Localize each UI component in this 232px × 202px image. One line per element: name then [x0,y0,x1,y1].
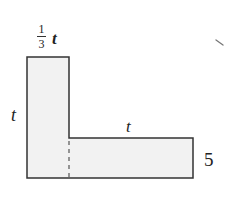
right-width-label: t [126,118,131,135]
fraction-numerator: 1 [39,23,45,35]
left-height-label: t [11,106,16,124]
fraction-denominator: 3 [39,38,45,50]
diagram-svg [0,0,232,202]
stray-mark [216,40,223,45]
l-shape-diagram: 1 3 t t t 5 [0,0,232,202]
l-shape-region [27,57,193,178]
top-width-variable-label: t [52,30,57,47]
top-width-fraction: 1 3 [37,23,46,50]
right-height-label: 5 [204,150,214,169]
